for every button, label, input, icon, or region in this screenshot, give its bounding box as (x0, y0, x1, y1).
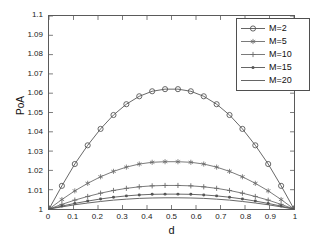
legend: M=2M=5M=10M=15M=20 (236, 18, 310, 91)
x-axis-title: d (48, 224, 295, 236)
legend-item-m15[interactable]: M=15 (239, 61, 307, 74)
legend-marker-icon (239, 22, 267, 35)
legend-label: M=5 (267, 37, 287, 46)
x-tick-label: 1 (293, 213, 297, 221)
legend-item-m10[interactable]: M=10 (239, 48, 307, 61)
x-tick-label: 0.6 (191, 213, 202, 221)
chart-screenshot: 11.011.021.031.041.051.061.071.081.091.1… (0, 0, 319, 248)
series-m2 (49, 87, 294, 209)
x-tick-label: 0.7 (215, 213, 226, 221)
legend-label: M=15 (267, 63, 292, 72)
legend-marker-icon (239, 61, 267, 74)
y-axis-title: PoA (15, 76, 26, 136)
legend-marker-icon (239, 48, 267, 61)
legend-marker-icon (239, 74, 267, 87)
x-tick-label: 0.1 (67, 213, 78, 221)
x-tick-label: 0.3 (117, 213, 128, 221)
legend-label: M=10 (267, 50, 292, 59)
x-tick-label: 0.5 (166, 213, 177, 221)
x-tick-label: 0.2 (92, 213, 103, 221)
legend-item-m5[interactable]: M=5 (239, 35, 307, 48)
x-tick-label: 0 (46, 213, 50, 221)
legend-item-m20[interactable]: M=20 (239, 74, 307, 87)
legend-label: M=20 (267, 76, 292, 85)
x-tick-label: 0.8 (240, 213, 251, 221)
x-tick-label: 0.9 (265, 213, 276, 221)
legend-marker-icon (239, 35, 267, 48)
x-tick-label: 0.4 (141, 213, 152, 221)
legend-label: M=2 (267, 24, 287, 33)
legend-item-m2[interactable]: M=2 (239, 22, 307, 35)
